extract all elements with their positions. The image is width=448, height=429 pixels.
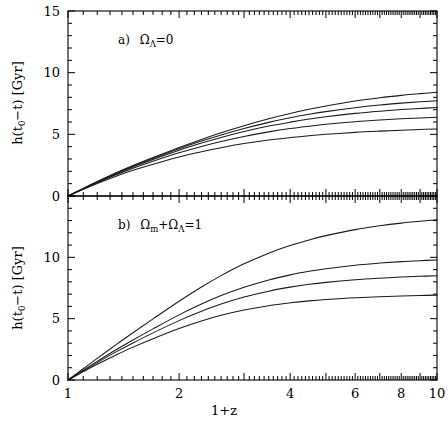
panel-b-label-omega-lambda: Ω: [168, 218, 178, 232]
panel-a-label-omega: Ω: [140, 33, 150, 47]
x-axis-title: 1+z: [211, 403, 237, 418]
panel-b-label-suffix: =1: [184, 218, 202, 232]
panel-a-label-prefix: a): [118, 33, 130, 47]
figure-background: [0, 0, 448, 429]
x-tick-label: 2: [175, 386, 183, 401]
cosmology-lookback-time-figure: 051015 a) ΩΛ=0 0510 1246810 b) Ωm+ΩΛ=1 1…: [0, 0, 448, 429]
panel-b-label-prefix: b): [118, 218, 130, 232]
panel-a-label-suffix: =0: [156, 33, 174, 47]
panel-b-y-axis-title: h(t0−t) [Gyr]: [10, 246, 27, 330]
figure-container: 051015 a) ΩΛ=0 0510 1246810 b) Ωm+ΩΛ=1 1…: [0, 0, 448, 429]
panel-b-label-omega-m: Ω: [140, 218, 150, 232]
y-tick-label: 10: [43, 250, 60, 265]
x-tick-label: 6: [351, 386, 359, 401]
x-tick-label: 10: [429, 386, 446, 401]
y-tick-label: 5: [52, 127, 60, 142]
y-tick-label: 15: [43, 4, 60, 19]
y-tick-label: 0: [52, 189, 60, 204]
panel-b-label-plus: +: [158, 218, 168, 232]
panel-a-label: a) ΩΛ=0: [118, 33, 173, 49]
panel-b-label-sub-m: m: [150, 224, 158, 234]
x-tick-label: 1: [64, 386, 72, 401]
panel-a-y-axis-title: h(t0−t) [Gyr]: [10, 61, 27, 145]
y-tick-label: 0: [52, 373, 60, 388]
y-tick-label: 10: [43, 65, 60, 80]
x-tick-label: 8: [397, 386, 405, 401]
y-tick-label: 5: [52, 311, 60, 326]
panel-b-label: b) Ωm+ΩΛ=1: [118, 218, 202, 234]
x-tick-label: 4: [286, 386, 294, 401]
